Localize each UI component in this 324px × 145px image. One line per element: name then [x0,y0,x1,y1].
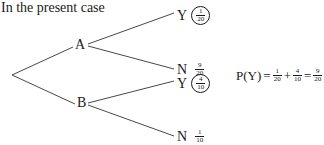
probability-formula: P(Y) = 1 20 + 4 10 = 9 20 [236,68,322,83]
branch-a-n [88,46,174,69]
leaf-a-y: Y 1 20 [177,6,210,25]
leaf-label: Y [177,77,187,91]
leaf-label: Y [177,9,187,23]
circled-probability: 1 20 [191,6,210,25]
leaf-b-n: N 1 10 [177,129,204,144]
fraction-result: 9 20 [313,68,322,83]
node-a: A [75,38,85,52]
branch-root-a [12,47,73,75]
fraction: 4 10 [196,76,205,91]
fraction: 1 20 [196,8,205,23]
fraction-term1: 1 20 [273,68,282,83]
fraction: 1 10 [195,129,204,144]
equals-sign: = [263,69,270,83]
plus-sign: + [284,69,291,83]
formula-lhs: P(Y) [236,69,261,83]
equals-sign: = [304,69,311,83]
branch-root-b [12,75,75,104]
branch-a-y [88,13,174,44]
circled-probability: 4 10 [191,74,210,93]
leaf-label: N [177,130,187,144]
leaf-b-y: Y 4 10 [177,74,210,93]
branch-b-n [88,105,174,136]
node-b: B [77,96,86,110]
branch-b-y [88,81,174,103]
fraction-term2: 4 10 [293,68,302,83]
